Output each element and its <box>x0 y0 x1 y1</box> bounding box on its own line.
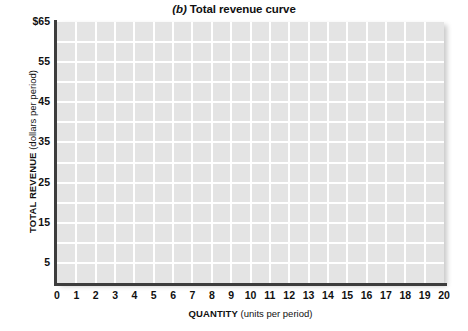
gridline-horizontal <box>57 61 444 63</box>
x-axis-line <box>54 283 447 286</box>
gridline-horizontal <box>57 162 444 164</box>
x-axis-title-units: (units per period) <box>241 308 313 319</box>
y-axis-tick-label: $65 <box>8 15 50 27</box>
panel-letter: (b) <box>172 3 186 15</box>
gridline-vertical <box>250 22 252 283</box>
gridline-vertical <box>346 22 348 283</box>
y-axis-title: TOTAL REVENUE (dollars per period) <box>27 32 38 272</box>
gridline-vertical <box>404 22 406 283</box>
plot-area <box>57 22 444 283</box>
y-axis-line <box>54 20 57 286</box>
gridline-vertical <box>191 22 193 283</box>
gridline-horizontal <box>57 242 444 244</box>
x-axis-title-name: QUANTITY <box>189 308 238 319</box>
vertical-gridlines <box>57 22 444 283</box>
gridline-vertical <box>366 22 368 283</box>
gridline-horizontal <box>57 41 444 43</box>
chart-title: (b) Total revenue curve <box>0 3 468 15</box>
x-axis-title: QUANTITY (units per period) <box>57 308 444 319</box>
gridline-vertical <box>133 22 135 283</box>
chart-title-text: Total revenue curve <box>187 3 296 15</box>
gridline-horizontal <box>57 202 444 204</box>
x-axis-tick-label: 20 <box>432 289 456 301</box>
gridline-vertical <box>424 22 426 283</box>
gridline-vertical <box>95 22 97 283</box>
gridline-vertical <box>75 22 77 283</box>
y-axis-title-name: TOTAL REVENUE <box>27 152 38 232</box>
gridline-horizontal <box>57 81 444 83</box>
gridline-horizontal <box>57 182 444 184</box>
gridline-horizontal <box>57 101 444 103</box>
y-axis-title-units: (dollars per period) <box>27 70 38 150</box>
gridline-vertical <box>308 22 310 283</box>
gridline-vertical <box>288 22 290 283</box>
gridline-horizontal <box>57 121 444 123</box>
gridline-horizontal <box>57 262 444 264</box>
gridline-vertical <box>114 22 116 283</box>
gridline-horizontal <box>57 141 444 143</box>
gridline-vertical <box>172 22 174 283</box>
gridline-vertical <box>230 22 232 283</box>
gridline-vertical <box>211 22 213 283</box>
gridline-vertical <box>153 22 155 283</box>
gridline-vertical <box>327 22 329 283</box>
gridline-horizontal <box>57 222 444 224</box>
horizontal-gridlines <box>57 22 444 283</box>
gridline-vertical <box>269 22 271 283</box>
gridline-vertical <box>385 22 387 283</box>
